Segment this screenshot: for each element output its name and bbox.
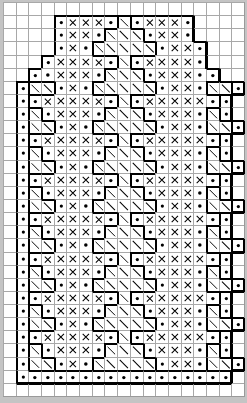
slash-icon — [220, 83, 232, 94]
empty-cell — [143, 383, 156, 396]
slash-cell — [130, 41, 143, 54]
slash-icon — [30, 358, 41, 370]
cross-cell — [181, 317, 194, 330]
slash-icon — [208, 227, 219, 238]
cross-icon — [169, 42, 181, 54]
slash-cell — [130, 317, 143, 330]
cross-cell — [155, 252, 168, 265]
dot-cell — [16, 81, 29, 94]
cross-icon — [182, 82, 194, 94]
dot-cell — [155, 41, 168, 54]
slash-cell — [104, 278, 117, 291]
cross-icon — [80, 305, 92, 317]
cross-icon — [182, 134, 194, 146]
cross-icon — [67, 344, 79, 356]
empty-cell — [3, 81, 16, 94]
dot-cell — [193, 343, 206, 356]
slash-icon — [144, 319, 156, 330]
slash-cell — [28, 265, 41, 278]
dot-icon — [207, 135, 219, 146]
dot-cell — [79, 370, 92, 383]
dot-cell — [193, 304, 206, 317]
empty-cell — [231, 55, 244, 68]
empty-cell — [3, 357, 16, 370]
cross-icon — [182, 292, 194, 304]
dot-cell — [193, 107, 206, 120]
cross-cell — [181, 120, 194, 133]
cross-icon — [67, 134, 79, 146]
dot-cell — [130, 55, 143, 68]
cross-icon — [156, 331, 168, 343]
empty-cell — [117, 383, 130, 396]
cross-icon — [42, 214, 54, 225]
dot-icon — [207, 214, 219, 225]
dot-cell — [130, 370, 143, 383]
cross-cell — [193, 330, 206, 343]
cross-icon — [67, 200, 79, 212]
dot-icon — [233, 240, 244, 251]
empty-cell — [219, 15, 232, 28]
cross-icon — [182, 305, 194, 317]
empty-cell — [3, 330, 16, 343]
dot-icon — [18, 147, 29, 159]
cross-icon — [182, 318, 194, 330]
dot-cell — [193, 160, 206, 173]
empty-cell — [231, 212, 244, 225]
cross-icon — [67, 161, 79, 173]
dot-cell — [130, 133, 143, 146]
cross-cell — [155, 15, 168, 28]
dot-icon — [194, 226, 206, 238]
dot-cell — [79, 357, 92, 370]
dot-cell — [231, 278, 244, 291]
slash-cell — [130, 120, 143, 133]
cross-icon — [80, 266, 92, 278]
dot-cell — [143, 146, 156, 159]
dot-cell — [92, 265, 105, 278]
cross-cell — [41, 330, 54, 343]
cross-cell — [79, 252, 92, 265]
cross-icon — [80, 56, 92, 68]
dot-icon — [18, 174, 29, 186]
empty-cell — [3, 317, 16, 330]
cross-cell — [181, 278, 194, 291]
dot-icon — [80, 82, 92, 94]
dot-cell — [193, 225, 206, 238]
cross-cell — [66, 107, 79, 120]
dot-icon — [194, 372, 206, 383]
slash-cell — [130, 68, 143, 81]
slash-cell — [117, 68, 130, 81]
cross-cell — [181, 41, 194, 54]
slash-icon — [119, 331, 130, 343]
slash-icon — [42, 162, 54, 173]
slash-icon — [94, 280, 105, 291]
dot-cell — [92, 186, 105, 199]
slash-icon — [30, 279, 41, 291]
empty-cell — [3, 160, 16, 173]
cross-icon — [93, 175, 105, 186]
cross-icon — [55, 331, 67, 343]
slash-cell — [41, 120, 54, 133]
dot-icon — [43, 108, 54, 120]
cross-cell — [181, 186, 194, 199]
cross-cell — [66, 28, 79, 41]
empty-cell — [219, 41, 232, 54]
dot-icon — [157, 42, 168, 54]
slash-cell — [104, 199, 117, 212]
empty-cell — [79, 383, 92, 396]
slash-icon — [131, 70, 143, 81]
dot-icon — [221, 135, 232, 146]
cross-cell — [54, 186, 67, 199]
dot-cell — [206, 68, 219, 81]
dot-icon — [145, 29, 156, 41]
cross-cell — [155, 291, 168, 304]
cross-cell — [54, 330, 67, 343]
cross-icon — [80, 213, 92, 225]
dot-cell — [16, 304, 29, 317]
cross-icon — [182, 200, 194, 212]
cross-cell — [66, 330, 79, 343]
dot-cell — [66, 370, 79, 383]
empty-cell — [3, 383, 16, 396]
slash-icon — [208, 148, 219, 159]
cross-cell — [79, 291, 92, 304]
cross-cell — [54, 173, 67, 186]
